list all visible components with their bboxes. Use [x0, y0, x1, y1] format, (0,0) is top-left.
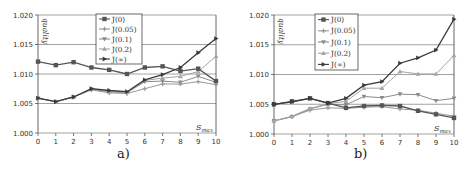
legend: J(0)J(0.05)J(0.1)J(0.2)J(∞)	[315, 14, 358, 70]
x-axis-label: Smax	[434, 124, 452, 134]
legend-entry: J(0.05)	[111, 25, 137, 34]
y-axis-label: quality	[277, 18, 286, 45]
x-tick-label: 5	[125, 138, 129, 146]
x-tick-label: 4	[107, 138, 112, 146]
x-tick-label: 0	[36, 138, 40, 146]
legend-entry: J(∞)	[111, 55, 127, 64]
legend: J(0)J(0.05)J(0.1)J(0.2)J(∞)	[96, 14, 142, 64]
caption-b: b)	[354, 146, 367, 161]
x-tick-label: 1	[290, 139, 294, 147]
x-tick-label: 7	[398, 139, 402, 147]
x-tick-label: 6	[380, 139, 385, 147]
y-tick-label: 1.015	[249, 41, 269, 49]
legend-entry: J(0.05)	[330, 26, 356, 35]
x-tick-label: 8	[178, 138, 182, 146]
series-0	[272, 96, 456, 120]
legend-entry: J(0)	[111, 15, 125, 24]
y-tick-label: 1.000	[249, 131, 269, 139]
y-tick-label: 1.005	[249, 101, 269, 109]
legend-entry: J(0.2)	[330, 49, 351, 58]
x-tick-label: 3	[326, 139, 330, 147]
y-tick-label: 1.015	[13, 41, 33, 49]
legend-entry: J(0.1)	[330, 38, 351, 47]
chart-panel-a: 1.0001.0051.0101.0151.020012345678910qua…	[0, 0, 235, 179]
legend-entry: J(0.1)	[111, 35, 132, 44]
series-4	[272, 17, 456, 107]
x-axis-label: Smax	[196, 123, 214, 133]
x-tick-label: 7	[160, 138, 164, 146]
x-tick-label: 2	[308, 139, 312, 147]
chart-panel-b: 1.0001.0051.0101.0151.020012345678910qua…	[236, 0, 471, 179]
x-tick-label: 9	[196, 138, 200, 146]
y-axis-label: quality	[41, 18, 50, 45]
y-tick-label: 1.010	[249, 71, 269, 79]
legend-entry: J(0)	[330, 15, 344, 24]
x-tick-label: 3	[89, 138, 93, 146]
x-tick-label: 9	[434, 139, 438, 147]
y-tick-label: 1.000	[13, 130, 33, 138]
x-tick-label: 10	[450, 139, 459, 147]
x-tick-label: 0	[272, 139, 276, 147]
x-tick-label: 6	[143, 138, 148, 146]
x-tick-label: 8	[416, 139, 420, 147]
x-tick-label: 1	[54, 138, 58, 146]
caption-a: a)	[117, 146, 130, 161]
y-tick-label: 1.020	[249, 12, 269, 20]
x-tick-label: 2	[71, 138, 75, 146]
legend-entry: J(0.2)	[111, 45, 132, 54]
y-tick-label: 1.005	[13, 100, 33, 108]
x-tick-label: 10	[212, 138, 221, 146]
y-tick-label: 1.010	[13, 71, 33, 79]
x-tick-label: 4	[344, 139, 349, 147]
y-tick-label: 1.020	[13, 12, 33, 20]
legend-entry: J(∞)	[330, 60, 346, 69]
